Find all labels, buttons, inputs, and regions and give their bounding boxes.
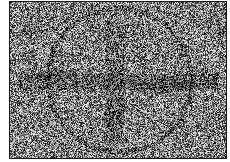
noisy-image-frame — [9, 1, 227, 159]
noisy-image — [10, 2, 226, 158]
